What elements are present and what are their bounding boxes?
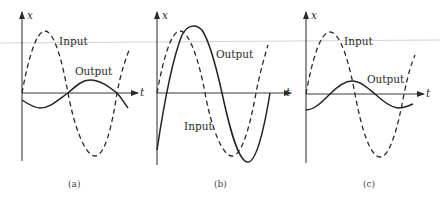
output-label: Output xyxy=(216,48,254,60)
panel-caption: (b) xyxy=(214,179,227,189)
x-axis-label: x xyxy=(311,9,317,21)
input-label: Input xyxy=(344,35,373,47)
response-diagram: x t Input Output (a) x t Output Input (b… xyxy=(0,0,440,198)
x-axis-label: x xyxy=(162,9,168,21)
panel-c: x t Input Output (c) xyxy=(306,9,431,189)
output-curve xyxy=(306,81,413,110)
output-label: Output xyxy=(367,73,405,85)
input-label: Input xyxy=(184,120,213,132)
t-axis-label: t xyxy=(426,87,431,99)
panel-caption: (a) xyxy=(68,179,80,189)
panel-b: x t Output Input (b) xyxy=(157,9,291,189)
output-curve xyxy=(157,26,270,162)
x-axis-label: x xyxy=(27,9,33,21)
panel-caption: (c) xyxy=(363,179,375,189)
panel-a: x t Input Output (a) xyxy=(22,9,145,189)
t-axis-label: t xyxy=(286,86,291,98)
output-label: Output xyxy=(75,65,113,77)
input-label: Input xyxy=(59,35,88,47)
t-axis-label: t xyxy=(140,86,145,98)
output-curve xyxy=(22,80,128,108)
